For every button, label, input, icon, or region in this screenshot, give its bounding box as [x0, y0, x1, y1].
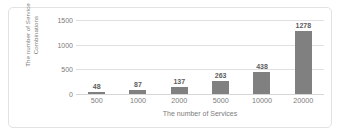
bar-data-label: 137 [159, 78, 200, 85]
chart-frame: The number of Service Combinations 05001… [8, 7, 332, 128]
x-axis-title: The number of Services [76, 110, 324, 117]
bar[interactable] [171, 87, 188, 94]
y-axis-tick-label: 0 [69, 91, 73, 98]
y-axis-title-line-2: Combinations [32, 16, 40, 54]
y-axis-tick-label: 1500 [57, 17, 73, 24]
x-axis-tick-label: 5000 [200, 96, 241, 105]
y-axis-title-line-1: The number of Service [24, 3, 32, 67]
plot-area: 48871372634381278 [76, 20, 324, 94]
y-axis-tick-label: 1000 [57, 41, 73, 48]
bar-slot: 137 [159, 20, 200, 94]
bar-slot: 263 [200, 20, 241, 94]
bar-data-label: 87 [117, 81, 158, 88]
x-axis-tick-label: 500 [76, 96, 117, 105]
bar-data-label: 1278 [283, 22, 324, 29]
x-axis-tick-labels: 5001000200050001000020000 [76, 96, 324, 105]
chart-container: The number of Service Combinations 05001… [0, 0, 344, 140]
bar-data-label: 438 [241, 63, 282, 70]
x-axis-tick-label: 1000 [117, 96, 158, 105]
bar-data-label: 48 [76, 83, 117, 90]
bar-slot: 87 [117, 20, 158, 94]
y-axis-tick-label: 500 [61, 66, 73, 73]
bar[interactable] [295, 31, 312, 94]
x-axis-tick-label: 2000 [159, 96, 200, 105]
bar[interactable] [88, 92, 105, 94]
y-axis-tick-labels: 050010001500 [47, 20, 73, 94]
bar-slot: 48 [76, 20, 117, 94]
bar-slot: 1278 [283, 20, 324, 94]
x-axis-tick-label: 10000 [241, 96, 282, 105]
bar-series: 48871372634381278 [76, 20, 324, 94]
x-axis-tick-label: 20000 [283, 96, 324, 105]
gridline [76, 94, 324, 95]
bar-data-label: 263 [200, 72, 241, 79]
bar[interactable] [129, 90, 146, 94]
bar[interactable] [253, 72, 270, 94]
y-axis-title: The number of Service Combinations [19, 0, 45, 80]
bar[interactable] [212, 81, 229, 94]
bar-slot: 438 [241, 20, 282, 94]
